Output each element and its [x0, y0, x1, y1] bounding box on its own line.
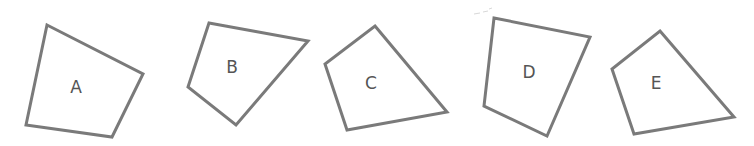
- shape-b-label: B: [226, 57, 238, 77]
- shape-c: C: [325, 26, 447, 130]
- shape-c-label: C: [365, 73, 377, 93]
- shape-e: E: [612, 31, 734, 134]
- shape-a-label: A: [70, 77, 82, 97]
- shape-d: D: [484, 18, 590, 136]
- shape-b: B: [188, 23, 308, 125]
- quadrilateral-b: [188, 23, 308, 125]
- quadrilateral-c: [325, 26, 447, 130]
- quadrilateral-e: [612, 31, 734, 134]
- faint-marks: [474, 8, 492, 14]
- shapes-diagram: A B C D E: [0, 0, 754, 146]
- quadrilateral-a: [26, 25, 143, 137]
- diagram-svg: A B C D E: [0, 0, 754, 146]
- quadrilateral-d: [484, 18, 590, 136]
- shape-d-label: D: [522, 62, 535, 82]
- shape-e-label: E: [651, 73, 662, 93]
- shape-a: A: [26, 25, 143, 137]
